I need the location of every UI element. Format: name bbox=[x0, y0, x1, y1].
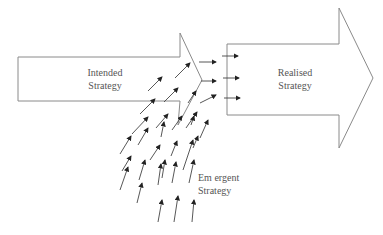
arrow-icon bbox=[171, 141, 177, 156]
arrow-icon bbox=[158, 200, 162, 222]
arrow-icon bbox=[120, 136, 131, 154]
arrow-icon bbox=[122, 156, 131, 171]
arrow-icon bbox=[174, 196, 178, 222]
emergent-line1: Em ergent bbox=[198, 171, 248, 184]
emergent-strategy-diagram bbox=[0, 0, 383, 235]
arrow-icon bbox=[158, 164, 161, 185]
emergent-line2: Strategy bbox=[198, 184, 248, 197]
arrow-icon bbox=[200, 95, 216, 103]
realised-line1: Realised bbox=[265, 66, 325, 79]
arrow-icon bbox=[172, 162, 176, 183]
intended-line1: Intended bbox=[75, 66, 135, 79]
arrow-icon bbox=[139, 160, 145, 180]
arrow-icon bbox=[200, 120, 208, 138]
arrow-icon bbox=[156, 114, 168, 128]
intended-strategy-label: Intended Strategy bbox=[75, 66, 135, 92]
arrow-icon bbox=[183, 140, 193, 170]
arrow-icon bbox=[161, 122, 164, 137]
arrow-icon bbox=[172, 116, 182, 130]
arrow-icon bbox=[162, 160, 165, 178]
arrow-icon bbox=[186, 112, 197, 128]
arrow-icon bbox=[192, 200, 194, 222]
arrow-icon bbox=[150, 145, 160, 160]
intended-line2: Strategy bbox=[75, 79, 135, 92]
arrow-icon bbox=[189, 160, 194, 183]
arrow-icon bbox=[138, 128, 148, 145]
realised-line2: Strategy bbox=[265, 79, 325, 92]
arrow-icon bbox=[193, 136, 198, 148]
arrow-icon bbox=[137, 183, 142, 203]
arrow-icon bbox=[120, 167, 128, 190]
realised-strategy-label: Realised Strategy bbox=[265, 66, 325, 92]
emergent-strategy-label: Em ergent Strategy bbox=[198, 171, 248, 197]
